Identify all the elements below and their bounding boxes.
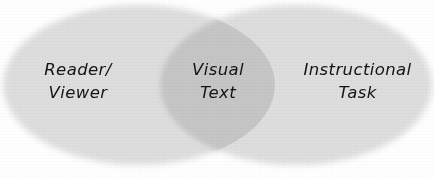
venn-diagram-canvas: Reader/ Viewer Visual Text Instructional… [0, 0, 435, 177]
venn-label-visual-text: Visual Text [163, 58, 273, 104]
venn-label-reader-viewer-line2: Viewer [8, 81, 148, 104]
venn-label-reader-viewer-line1: Reader/ [8, 58, 148, 81]
venn-label-visual-text-line2: Text [163, 81, 273, 104]
venn-label-instructional-task-line2: Task [285, 81, 430, 104]
venn-label-reader-viewer: Reader/ Viewer [8, 58, 148, 104]
venn-label-instructional-task: Instructional Task [285, 58, 430, 104]
venn-label-visual-text-line1: Visual [163, 58, 273, 81]
venn-label-instructional-task-line1: Instructional [285, 58, 430, 81]
